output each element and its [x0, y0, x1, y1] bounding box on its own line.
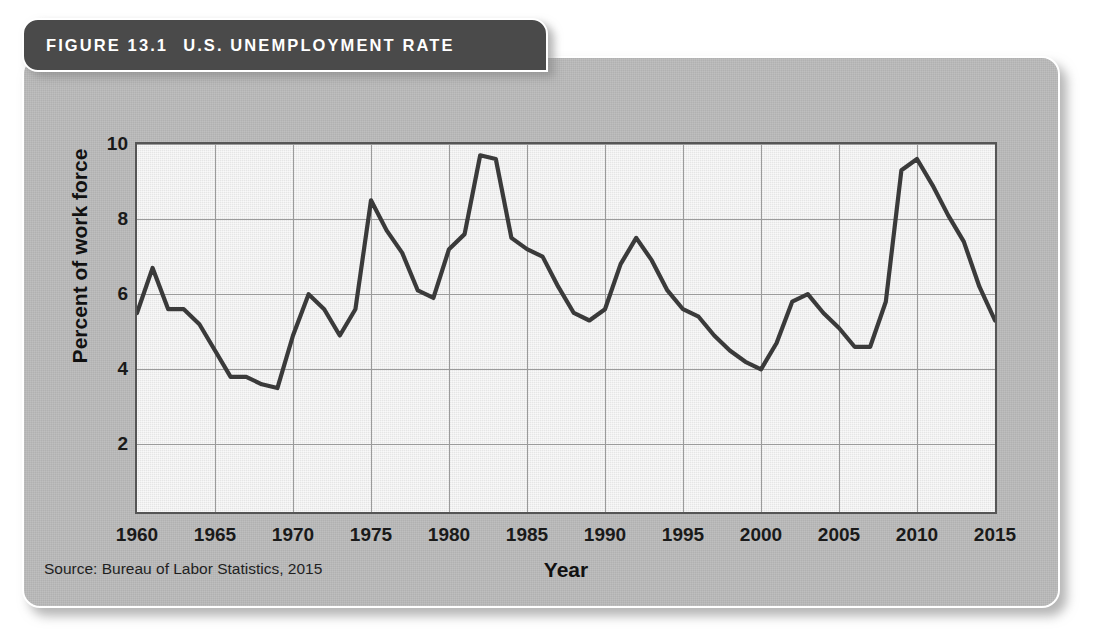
- x-tick-label-1975: 1975: [350, 524, 392, 546]
- plot-frame: [135, 142, 997, 514]
- x-tick-label-1980: 1980: [428, 524, 470, 546]
- figure-header-text: FIGURE 13.1U.S. UNEMPLOYMENT RATE: [46, 36, 455, 55]
- x-tick-label-1970: 1970: [272, 524, 314, 546]
- y-tick-label-4: 4: [117, 358, 128, 380]
- series-line: [137, 155, 995, 388]
- figure-number: FIGURE 13.1: [46, 36, 168, 54]
- y-tick-label-8: 8: [117, 208, 128, 230]
- chart-area: Percent of work force 246810 19601965197…: [24, 58, 1062, 610]
- figure-panel: Percent of work force 246810 19601965197…: [22, 56, 1060, 608]
- figure-container: Percent of work force 246810 19601965197…: [0, 0, 1093, 644]
- x-tick-label-1965: 1965: [194, 524, 236, 546]
- y-axis-ticks: 246810: [86, 142, 128, 514]
- x-tick-label-2000: 2000: [740, 524, 782, 546]
- x-axis-ticks: 1960196519701975198019851990199520002005…: [135, 524, 997, 550]
- unemployment-line-series: [137, 144, 995, 512]
- x-tick-label-1985: 1985: [506, 524, 548, 546]
- source-note: Source: Bureau of Labor Statistics, 2015: [44, 560, 322, 578]
- figure-title: U.S. UNEMPLOYMENT RATE: [183, 36, 454, 54]
- x-tick-label-2010: 2010: [896, 524, 938, 546]
- y-tick-label-10: 10: [107, 133, 128, 155]
- y-tick-label-6: 6: [117, 283, 128, 305]
- x-tick-label-1990: 1990: [584, 524, 626, 546]
- x-tick-label-2005: 2005: [818, 524, 860, 546]
- y-tick-label-2: 2: [117, 433, 128, 455]
- x-tick-label-1995: 1995: [662, 524, 704, 546]
- x-tick-label-1960: 1960: [116, 524, 158, 546]
- figure-header-tab: FIGURE 13.1U.S. UNEMPLOYMENT RATE: [22, 18, 548, 72]
- plot-inner: [137, 144, 995, 512]
- x-tick-label-2015: 2015: [974, 524, 1016, 546]
